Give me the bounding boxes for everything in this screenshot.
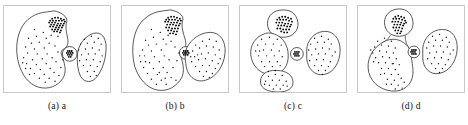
data-point: [161, 80, 162, 81]
data-point: [71, 50, 73, 52]
data-point: [392, 18, 394, 20]
data-point: [396, 32, 398, 34]
data-point: [294, 51, 296, 53]
data-point: [100, 43, 101, 44]
data-point: [439, 34, 440, 35]
data-point: [170, 40, 171, 41]
data-point: [148, 44, 149, 45]
data-point: [317, 41, 318, 42]
data-point: [205, 58, 206, 59]
data-point: [56, 30, 58, 32]
data-point: [280, 25, 282, 27]
data-point: [45, 63, 46, 64]
data-point: [218, 49, 219, 50]
data-point: [97, 66, 98, 67]
data-point: [395, 47, 396, 48]
data-point: [52, 26, 54, 28]
data-point: [391, 40, 392, 41]
data-point: [67, 50, 69, 52]
panel-b-frame: [121, 5, 229, 93]
data-point: [167, 17, 169, 19]
cluster-bridge-circle-cluster: [293, 51, 300, 57]
data-point: [393, 63, 394, 64]
data-point: [286, 26, 288, 28]
data-point: [203, 76, 204, 77]
data-point: [191, 61, 192, 62]
data-point: [32, 59, 33, 60]
data-point: [277, 61, 278, 62]
data-point: [179, 18, 181, 20]
data-point: [394, 16, 396, 18]
data-point: [163, 39, 164, 40]
data-point: [172, 67, 173, 68]
data-point: [427, 58, 428, 59]
data-point: [275, 22, 277, 24]
data-point: [296, 51, 298, 53]
panel-row: (a) a (b) b: [0, 0, 468, 125]
data-point: [399, 32, 401, 34]
data-point: [381, 68, 382, 69]
data-point: [145, 61, 146, 62]
data-point: [44, 47, 45, 48]
data-point: [140, 61, 141, 62]
data-point: [280, 88, 281, 89]
data-point: [334, 51, 335, 52]
data-point: [266, 55, 267, 56]
data-point: [93, 59, 94, 60]
data-point: [90, 65, 91, 66]
data-point: [394, 21, 396, 23]
data-point: [186, 52, 188, 54]
data-point: [255, 50, 256, 51]
data-point: [78, 49, 79, 50]
data-point: [209, 77, 210, 78]
data-point: [60, 23, 62, 25]
data-point: [58, 20, 60, 22]
data-point: [209, 39, 210, 40]
data-point: [258, 55, 259, 56]
data-point: [144, 55, 145, 56]
data-point: [272, 80, 273, 81]
data-point: [268, 71, 269, 72]
panel-d-top-blob-contour: [385, 9, 414, 36]
data-point: [156, 83, 157, 84]
data-point: [395, 88, 396, 89]
data-point: [153, 37, 154, 38]
data-point: [22, 62, 23, 63]
data-point: [187, 54, 189, 56]
data-point: [441, 57, 442, 58]
data-point: [398, 27, 400, 29]
data-point: [183, 54, 185, 56]
data-point: [179, 23, 181, 25]
data-point: [174, 46, 175, 47]
data-point: [397, 21, 399, 23]
data-point: [321, 36, 322, 37]
data-point: [415, 53, 417, 55]
data-point: [174, 19, 176, 21]
data-point: [382, 56, 383, 57]
data-point: [316, 59, 317, 60]
panel-b-left-crescent-contour: [133, 10, 186, 91]
data-point: [59, 31, 61, 33]
data-point: [51, 22, 53, 24]
data-point: [87, 71, 88, 72]
data-point: [278, 22, 280, 24]
data-point: [48, 42, 49, 43]
data-point: [57, 51, 58, 52]
data-point: [192, 50, 193, 51]
data-point: [415, 49, 417, 51]
data-point: [314, 65, 315, 66]
panel-a-frame: [3, 5, 111, 93]
data-point: [329, 48, 330, 49]
data-point: [271, 49, 272, 50]
data-point: [167, 35, 168, 36]
data-point: [55, 20, 57, 22]
data-point: [183, 50, 185, 52]
panel-d-right-blob-contour: [423, 29, 457, 73]
data-point: [153, 68, 154, 69]
data-point: [282, 84, 283, 85]
panel-c-middle-blob-contour: [251, 33, 289, 75]
data-point: [328, 66, 329, 67]
data-point: [380, 74, 381, 75]
data-point: [285, 19, 287, 21]
data-point: [176, 17, 178, 19]
